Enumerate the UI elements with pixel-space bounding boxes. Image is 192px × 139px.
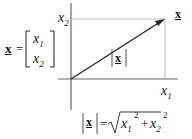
norm-formula-lhs: x: [86, 116, 92, 128]
horizontal-axis-label: x1: [161, 84, 172, 101]
vector-symbol-lhs: x: [5, 42, 12, 55]
vertical-axis-label: x2: [58, 11, 69, 28]
magnitude-label: x: [115, 52, 121, 64]
norm-term-1-power: 2: [134, 111, 139, 120]
right-bracket: [50, 31, 54, 67]
left-bracket: [26, 31, 30, 67]
equals-sign: =: [16, 42, 23, 55]
vector-tip-label: x: [175, 8, 181, 20]
norm-term-1: x1: [121, 117, 132, 134]
column-entry-2: x2: [33, 52, 44, 69]
norm-plus: +: [141, 117, 148, 130]
column-entry-1: x1: [33, 32, 44, 49]
norm-term-2-power: 2: [163, 111, 168, 120]
norm-term-2: x2: [150, 117, 161, 134]
norm-formula-equals: =: [100, 117, 107, 130]
